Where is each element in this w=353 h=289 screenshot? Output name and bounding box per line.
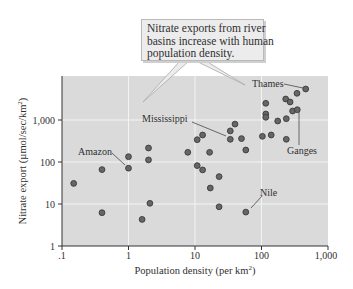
data-point <box>275 118 281 124</box>
data-point <box>126 154 132 160</box>
y-tick-label: 1,000 <box>33 115 56 126</box>
data-point <box>139 217 145 223</box>
x-tick-label: 1,000 <box>315 250 338 261</box>
x-tick-label: 100 <box>254 250 269 261</box>
data-point-thames <box>303 86 309 92</box>
data-point <box>146 157 152 163</box>
data-point <box>268 132 274 138</box>
data-point-amazon <box>126 165 132 171</box>
callout-box: Nitrate exports from river basins increa… <box>141 19 264 61</box>
x-tick-label: 1 <box>126 250 131 261</box>
annotation-nile: Nile <box>260 187 278 198</box>
annotation-ganges: Ganges <box>287 145 317 156</box>
y-tick-label: 1 <box>50 241 55 252</box>
data-point <box>71 181 77 187</box>
callout-line: population density. <box>147 47 258 60</box>
y-tick-label: 100 <box>40 157 55 168</box>
data-point <box>260 133 266 139</box>
data-point <box>294 90 300 96</box>
x-axis-title: Population density (per km2) <box>134 264 256 277</box>
x-tick-label: 10 <box>190 250 200 261</box>
data-point-nile <box>243 209 249 215</box>
data-point <box>185 149 191 155</box>
data-point <box>227 128 233 134</box>
data-point <box>200 132 206 138</box>
data-point <box>232 121 238 127</box>
annotation-amazon: Amazon <box>78 146 112 157</box>
data-point-mississippi <box>227 136 233 142</box>
x-tick-labels: .1 1 10 100 1,000 <box>58 250 337 261</box>
data-point <box>283 116 289 122</box>
annotation-thames: Thames <box>252 78 284 89</box>
data-point <box>147 200 153 206</box>
data-point <box>243 147 249 153</box>
data-point <box>283 136 289 142</box>
data-point <box>200 167 206 173</box>
data-point <box>99 167 105 173</box>
data-point <box>207 149 213 155</box>
data-point <box>194 163 200 169</box>
data-point <box>287 99 293 105</box>
data-point <box>194 137 200 143</box>
data-point-ganges <box>294 107 300 113</box>
x-tick-label: .1 <box>58 250 66 261</box>
callout-line: Nitrate exports from river <box>147 22 258 35</box>
y-axis-title: Nitrate export (µmol/sec/km2) <box>16 97 29 224</box>
data-point <box>216 204 222 210</box>
callout-line: basins increase with human <box>147 35 258 48</box>
y-tick-label: 10 <box>45 199 55 210</box>
data-point <box>146 145 152 151</box>
data-point <box>99 210 105 216</box>
data-point <box>239 136 245 142</box>
data-point <box>263 114 269 120</box>
y-tick-labels: 1 10 100 1,000 <box>33 115 56 252</box>
data-point <box>216 174 222 180</box>
data-point <box>263 100 269 106</box>
annotation-mississippi: Mississippi <box>142 113 188 124</box>
data-point <box>207 185 213 191</box>
